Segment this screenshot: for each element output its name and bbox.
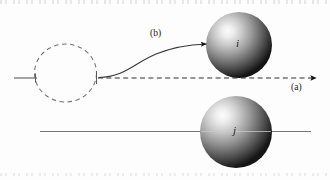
figure-canvas: (b) (a) i j xyxy=(0,0,330,180)
sphere-j-label: j xyxy=(233,124,236,136)
trajectory-a-label: (a) xyxy=(291,82,302,92)
trajectory-b-curved-arrow xyxy=(99,44,206,78)
incoming-particle-outline xyxy=(35,44,97,102)
sphere-i-label: i xyxy=(236,37,239,49)
trajectory-diagram-svg xyxy=(0,0,330,180)
trajectory-b-label: (b) xyxy=(150,28,161,38)
